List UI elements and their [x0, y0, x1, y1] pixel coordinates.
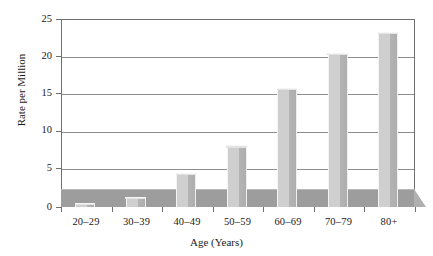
bar-80-plus[interactable] [378, 34, 398, 207]
xtick-mark-4 [263, 207, 264, 212]
bar-70-79[interactable] [328, 55, 348, 207]
xtick-mark-0 [61, 207, 62, 212]
bar-30-39[interactable] [126, 199, 146, 207]
ytick-label-5: 5 [28, 163, 52, 174]
xtick-mark-5 [314, 207, 315, 212]
bar-slot-4 [263, 19, 314, 207]
chart-floor-wedge [414, 189, 426, 207]
bar-slot-5 [314, 19, 365, 207]
xtick-label-80-plus: 80+ [359, 216, 419, 228]
ytick-label-15: 15 [28, 88, 52, 99]
xtick-mark-3 [213, 207, 214, 212]
ytick-label-20: 20 [28, 51, 52, 62]
bar-20-29[interactable] [75, 205, 95, 207]
bar-40-49[interactable] [176, 175, 196, 207]
bar-slot-2 [162, 19, 213, 207]
y-axis-title: Rate per Million [15, 25, 27, 155]
bar-slot-0 [61, 19, 112, 207]
xtick-mark-7 [415, 207, 416, 212]
xtick-mark-2 [162, 207, 163, 212]
ytick-label-10: 10 [28, 125, 52, 136]
ytick-label-0: 0 [28, 202, 52, 213]
xtick-mark-1 [112, 207, 113, 212]
bar-slot-1 [112, 19, 163, 207]
bar-chart-figure: 25 20 15 10 5 0 20–29 30–39 40–49 50–59 … [0, 0, 433, 256]
ytick-label-25: 25 [28, 14, 52, 25]
bar-50-59[interactable] [227, 148, 247, 207]
xtick-mark-6 [364, 207, 365, 212]
x-axis-title: Age (Years) [0, 236, 433, 248]
bar-series [61, 19, 415, 207]
bar-60-69[interactable] [277, 90, 297, 207]
bar-slot-3 [213, 19, 264, 207]
bar-slot-6 [364, 19, 415, 207]
